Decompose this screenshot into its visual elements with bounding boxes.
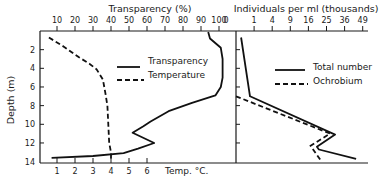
x-bottom-tick-label: 2 bbox=[72, 167, 77, 176]
right-x-top-tick-label: 4 bbox=[270, 16, 275, 25]
right-x-top-tick-label: 1 bbox=[252, 16, 257, 25]
right-chart-title: Individuals per ml (thousands) bbox=[234, 3, 379, 14]
series-line-transparency bbox=[52, 32, 223, 158]
legend-label-total-number: Total number bbox=[312, 62, 372, 72]
right-frame bbox=[236, 31, 368, 163]
series-line-temperature bbox=[49, 38, 111, 162]
right-x-top-tick-label: 0 bbox=[223, 16, 228, 25]
right-x-top-tick-label: 16 bbox=[303, 16, 313, 25]
right-legend: Total number Ochrobium bbox=[275, 62, 372, 86]
x-top-tick-label: 70 bbox=[160, 16, 170, 25]
x-bottom-tick-label: 1 bbox=[54, 167, 59, 176]
right-x-top-tick-label: 9 bbox=[288, 16, 293, 25]
x-bottom-tick-label: 5 bbox=[126, 167, 131, 176]
right-x-top-tick-label: 36 bbox=[340, 16, 350, 25]
y-tick-label: 8 bbox=[30, 102, 35, 111]
x-bottom-axis-label: Temp. °C. bbox=[164, 166, 208, 176]
x-bottom-tick-label: 4 bbox=[108, 167, 113, 176]
y-tick-label: 4 bbox=[30, 64, 35, 73]
axis-ticks: 2468101214102030405060708090100123456014… bbox=[25, 16, 368, 176]
x-top-tick-label: 60 bbox=[142, 16, 152, 25]
series-line-ochrobium bbox=[236, 96, 330, 160]
x-top-tick-label: 20 bbox=[70, 16, 80, 25]
y-tick-label: 10 bbox=[25, 120, 35, 129]
left-legend: Transparency Temperature bbox=[117, 56, 209, 80]
y-tick-label: 2 bbox=[30, 46, 35, 55]
x-top-tick-label: 40 bbox=[106, 16, 116, 25]
legend-label-temperature: Temperature bbox=[147, 70, 205, 80]
x-top-tick-label: 50 bbox=[124, 16, 134, 25]
x-bottom-tick-label: 6 bbox=[144, 167, 149, 176]
chart: Transparency (%) Individuals per ml (tho… bbox=[0, 0, 385, 186]
left-chart-title: Transparency (%) bbox=[108, 3, 192, 14]
right-x-top-tick-label: 25 bbox=[321, 16, 331, 25]
y-tick-label: 12 bbox=[25, 139, 35, 148]
x-bottom-tick-label: 3 bbox=[90, 167, 95, 176]
legend-label-ochrobium: Ochrobium bbox=[313, 76, 362, 86]
y-tick-label: 6 bbox=[30, 83, 35, 92]
x-top-tick-label: 80 bbox=[178, 16, 188, 25]
series-line-total-number bbox=[241, 38, 356, 159]
series-lines bbox=[49, 32, 356, 162]
x-top-tick-label: 90 bbox=[196, 16, 206, 25]
y-axis-label: Depth (m) bbox=[5, 76, 16, 125]
y-tick-label: 14 bbox=[25, 158, 35, 167]
legend-label-transparency: Transparency bbox=[147, 56, 209, 66]
x-top-tick-label: 10 bbox=[52, 16, 62, 25]
right-x-top-tick-label: 49 bbox=[358, 16, 368, 25]
x-top-tick-label: 30 bbox=[88, 16, 98, 25]
